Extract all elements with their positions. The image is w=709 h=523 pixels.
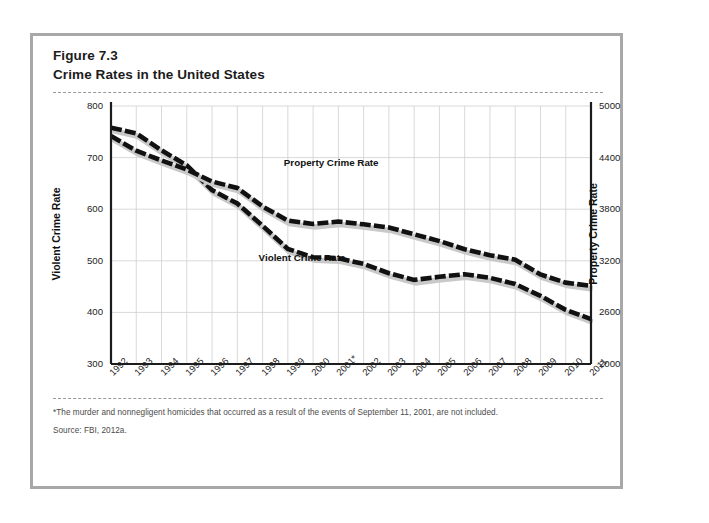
- series-label-violent: Violent Crime Rate: [259, 252, 346, 263]
- y-tick-right: 4400: [599, 152, 639, 163]
- y-tick-left: 700: [69, 152, 103, 163]
- y-tick-left: 400: [69, 306, 103, 317]
- y-tick-left: 300: [69, 358, 103, 369]
- y-tick-left: 600: [69, 203, 103, 214]
- y-axis-left-title: Violent Crime Rate: [50, 174, 62, 294]
- divider-top: [53, 92, 603, 93]
- chart-gridlines: [111, 106, 591, 364]
- y-tick-right: 2600: [599, 306, 639, 317]
- figure-number: Figure 7.3: [53, 48, 118, 63]
- figure-panel: Figure 7.3 Crime Rates in the United Sta…: [30, 33, 623, 489]
- figure-inner: Figure 7.3 Crime Rates in the United Sta…: [33, 36, 620, 486]
- y-tick-right: 5000: [599, 100, 639, 111]
- crime-rates-line-chart: [33, 98, 620, 394]
- series-label-property: Property Crime Rate: [284, 157, 379, 168]
- divider-bottom: [53, 398, 603, 399]
- footnote-source: Source: FBI, 2012a.: [53, 426, 127, 435]
- figure-title: Crime Rates in the United States: [53, 67, 265, 82]
- chart-area: Violent Crime Rate Property Crime Rate 8…: [33, 98, 620, 394]
- footnote-asterisk: *The murder and nonnegligent homicides t…: [53, 408, 498, 417]
- chart-axis-lines: [111, 102, 591, 364]
- y-tick-left: 500: [69, 255, 103, 266]
- y-tick-right: 3800: [599, 203, 639, 214]
- y-axis-right-title: Property Crime Rate: [587, 174, 599, 294]
- y-tick-left: 800: [69, 100, 103, 111]
- y-tick-right: 3200: [599, 255, 639, 266]
